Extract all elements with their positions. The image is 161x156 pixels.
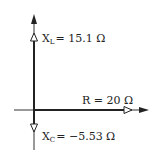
horizontal-axis-arrowhead-icon [139,107,149,113]
r-label: R = 20 Ω [82,94,133,107]
vertical-axis-arrowhead-icon [31,14,37,24]
xc-hollow-arrowhead-icon [31,124,38,132]
phasor-diagram: XL= 15.1 Ω R = 20 Ω XC= −5.53 Ω [0,0,161,156]
xc-label: XC= −5.53 Ω [42,130,115,144]
xl-hollow-arrowhead-icon [31,33,38,41]
r-hollow-arrowhead-icon [124,107,132,114]
xl-label: XL= 15.1 Ω [42,32,105,46]
